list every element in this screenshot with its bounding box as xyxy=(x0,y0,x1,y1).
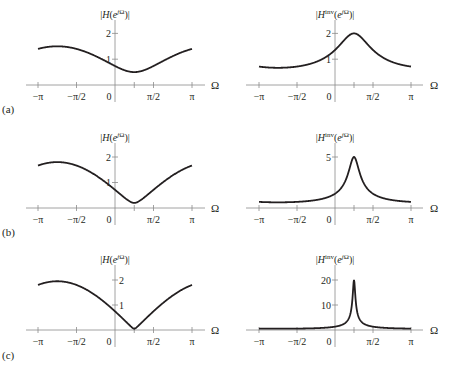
plot-title: |H(ejΩ)| xyxy=(100,8,130,21)
y-tick-label: 5 xyxy=(326,152,331,163)
omega-axis-label: Ω xyxy=(430,324,438,336)
x-tick-label: π/2 xyxy=(367,214,380,225)
x-tick-label: π/2 xyxy=(367,91,380,102)
x-tick-label: −π xyxy=(254,336,265,347)
y-tick-label: 20 xyxy=(321,275,331,286)
x-tick-label: 0 xyxy=(327,214,332,225)
plot-b-left: −π−π/20π/2πΩ12|H(ejΩ)| xyxy=(26,131,219,225)
plot-title: |H(ejΩ)| xyxy=(100,253,130,266)
figure: −π−π/20π/2πΩ12|H(ejΩ)|−π−π/20π/2πΩ12|Hin… xyxy=(0,0,450,375)
x-tick-label: −π xyxy=(254,91,265,102)
plot-title: |Hinv(ejΩ)| xyxy=(316,8,355,21)
x-tick-label: π xyxy=(189,214,194,225)
plot-c-right: −π−π/20π/2πΩ1020|Hinv(ejΩ)| xyxy=(246,253,438,347)
y-tick-label: 2 xyxy=(119,275,124,286)
omega-axis-label: Ω xyxy=(211,202,219,214)
x-tick-label: −π/2 xyxy=(288,336,306,347)
y-tick-label: 10 xyxy=(321,300,331,311)
plot-title: |H(ejΩ)| xyxy=(100,131,130,144)
x-tick-label: −π xyxy=(33,336,44,347)
plot-a-right: −π−π/20π/2πΩ12|Hinv(ejΩ)| xyxy=(246,8,438,102)
x-tick-label: 0 xyxy=(327,91,332,102)
panel-label-a: (a) xyxy=(2,103,14,115)
x-tick-label: 0 xyxy=(107,91,112,102)
y-tick-label: 2 xyxy=(326,28,331,39)
x-tick-label: π/2 xyxy=(147,214,160,225)
omega-axis-label: Ω xyxy=(430,202,438,214)
omega-axis-label: Ω xyxy=(430,79,438,91)
x-tick-label: π/2 xyxy=(147,336,160,347)
panel-label-c: (c) xyxy=(2,349,14,361)
plot-c-left: −π−π/20π/2πΩ12|H(ejΩ)| xyxy=(26,253,219,347)
x-tick-label: −π/2 xyxy=(67,214,85,225)
plot-b-right: −π−π/20π/2πΩ5|Hinv(ejΩ)| xyxy=(246,131,438,225)
x-tick-label: π/2 xyxy=(147,91,160,102)
plot-a-left: −π−π/20π/2πΩ12|H(ejΩ)| xyxy=(26,8,219,102)
omega-axis-label: Ω xyxy=(211,324,219,336)
x-tick-label: 0 xyxy=(327,336,332,347)
x-tick-label: −π xyxy=(33,214,44,225)
x-tick-label: π/2 xyxy=(367,336,380,347)
panel-label-b: (b) xyxy=(2,226,15,238)
plot-title: |Hinv(ejΩ)| xyxy=(316,131,355,144)
x-tick-label: −π xyxy=(254,214,265,225)
x-tick-label: −π/2 xyxy=(67,336,85,347)
x-tick-label: 0 xyxy=(107,336,112,347)
x-tick-label: −π/2 xyxy=(67,91,85,102)
x-tick-label: π xyxy=(408,214,413,225)
x-tick-label: π xyxy=(408,91,413,102)
omega-axis-label: Ω xyxy=(211,79,219,91)
x-tick-label: 0 xyxy=(107,214,112,225)
x-tick-label: −π/2 xyxy=(288,214,306,225)
x-tick-label: −π/2 xyxy=(288,91,306,102)
x-tick-label: π xyxy=(189,336,194,347)
x-tick-label: −π xyxy=(33,91,44,102)
x-tick-label: π xyxy=(189,91,194,102)
plot-title: |Hinv(ejΩ)| xyxy=(316,253,355,266)
y-tick-label: 2 xyxy=(106,152,111,163)
y-tick-label: 2 xyxy=(106,28,111,39)
x-tick-label: π xyxy=(408,336,413,347)
y-tick-label: 1 xyxy=(119,300,124,311)
